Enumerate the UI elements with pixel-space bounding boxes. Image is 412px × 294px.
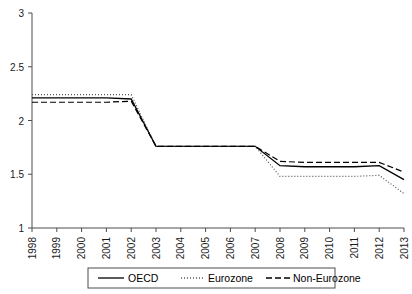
chart-container: 11.522.531998199920002001200220032004200…	[0, 0, 412, 294]
legend-label-non-eurozone: Non-Eurozone	[293, 272, 361, 284]
x-tick-label: 2002	[126, 237, 137, 260]
y-tick-label: 1.5	[10, 169, 24, 180]
x-tick-label: 1998	[27, 237, 38, 260]
series-line-oecd	[32, 98, 404, 180]
series-line-non-eurozone	[32, 101, 404, 172]
x-tick-label: 2013	[399, 237, 410, 260]
x-tick-label: 2005	[200, 237, 211, 260]
x-tick-label: 2003	[151, 237, 162, 260]
x-tick-label: 2004	[175, 237, 186, 260]
y-tick-label: 2.5	[10, 62, 24, 73]
y-tick-label: 2	[18, 116, 24, 127]
y-tick-label: 1	[18, 223, 24, 234]
legend-label-oecd: OECD	[128, 272, 159, 284]
series-line-eurozone	[32, 95, 404, 194]
x-tick-label: 2012	[374, 237, 385, 260]
legend-label-eurozone: Eurozone	[208, 272, 253, 284]
line-chart: 11.522.531998199920002001200220032004200…	[0, 0, 412, 294]
x-tick-label: 2000	[76, 237, 87, 260]
x-tick-label: 1999	[51, 237, 62, 260]
x-tick-label: 2010	[324, 237, 335, 260]
x-tick-label: 2011	[349, 237, 360, 259]
x-tick-label: 2008	[275, 237, 286, 260]
x-tick-label: 2007	[250, 237, 261, 260]
y-tick-label: 3	[18, 8, 24, 19]
x-tick-label: 2009	[299, 237, 310, 260]
x-tick-label: 2001	[101, 237, 112, 260]
x-tick-label: 2006	[225, 237, 236, 260]
